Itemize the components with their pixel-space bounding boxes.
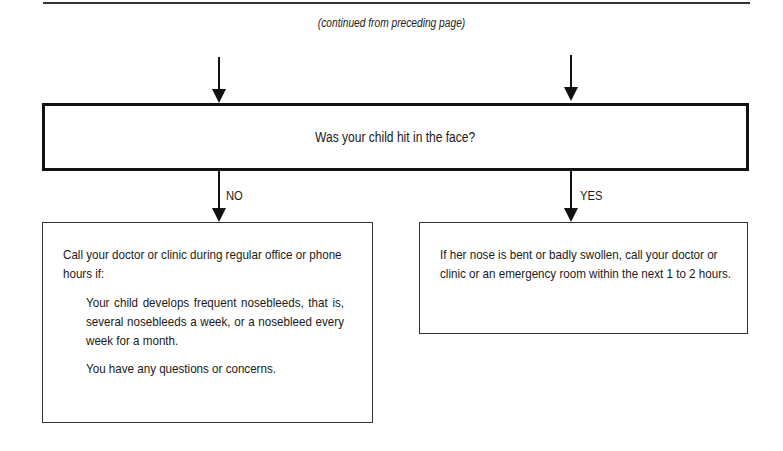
top-rule — [43, 2, 750, 4]
yes-outcome-box: If her nose is bent or badly swollen, ca… — [419, 222, 748, 334]
question-box: Was your child hit in the face? — [42, 103, 749, 171]
continued-note: (continued from preceding page) — [59, 16, 725, 30]
incoming-arrow-left-line — [218, 57, 220, 91]
yes-advice-text: If her nose is bent or badly swollen, ca… — [440, 245, 732, 283]
no-condition-1: Your child develops frequent nosebleeds,… — [86, 293, 344, 350]
no-intro-text: Call your doctor or clinic during regula… — [63, 245, 355, 283]
no-label: NO — [226, 188, 243, 203]
arrow-down-icon — [564, 87, 578, 101]
question-text: Was your child hit in the face? — [315, 129, 475, 145]
arrow-down-icon — [212, 89, 226, 103]
yes-label: YES — [580, 188, 602, 203]
no-branch-line — [218, 171, 220, 209]
arrow-down-icon — [564, 208, 578, 222]
no-condition-2: You have any questions or concerns. — [86, 359, 344, 378]
yes-branch-line — [570, 171, 572, 209]
arrow-down-icon — [212, 208, 226, 222]
no-outcome-box: Call your doctor or clinic during regula… — [42, 222, 373, 423]
incoming-arrow-right-line — [570, 55, 572, 89]
